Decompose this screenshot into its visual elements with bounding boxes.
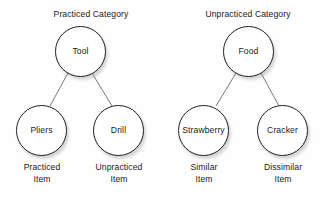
- node-strawberry[interactable]: Strawberry: [178, 105, 229, 156]
- caption-pliers-line1: Practiced: [6, 162, 78, 174]
- node-cracker[interactable]: Cracker: [257, 105, 308, 156]
- group-title-practiced-category: Practiced Category: [44, 10, 138, 19]
- node-pliers[interactable]: Pliers: [16, 105, 67, 156]
- caption-strawberry: Similar Item: [168, 162, 240, 185]
- edge-food-cracker: [261, 73, 279, 106]
- node-cracker-label: Cracker: [267, 126, 298, 135]
- caption-cracker-line2: Item: [246, 174, 320, 186]
- node-food-label: Food: [239, 47, 259, 56]
- node-tool-label: Tool: [72, 47, 88, 56]
- edge-food-strawberry: [216, 73, 236, 106]
- caption-cracker: Dissimilar Item: [246, 162, 320, 185]
- caption-pliers: Practiced Item: [6, 162, 78, 185]
- edge-tool-drill: [92, 73, 112, 106]
- diagram-canvas: Practiced Category Unpracticed Category …: [0, 0, 330, 197]
- node-drill-label: Drill: [111, 126, 126, 135]
- caption-pliers-line2: Item: [6, 174, 78, 186]
- caption-drill: Unpracticed Item: [82, 162, 156, 185]
- caption-drill-line2: Item: [82, 174, 156, 186]
- caption-cracker-line1: Dissimilar: [246, 162, 320, 174]
- node-tool[interactable]: Tool: [55, 26, 106, 77]
- node-drill[interactable]: Drill: [93, 105, 144, 156]
- caption-strawberry-line2: Item: [168, 174, 240, 186]
- edge-tool-pliers: [50, 73, 68, 106]
- caption-drill-line1: Unpracticed: [82, 162, 156, 174]
- node-strawberry-label: Strawberry: [182, 126, 225, 135]
- group-title-unpracticed-category: Unpracticed Category: [193, 10, 303, 19]
- caption-strawberry-line1: Similar: [168, 162, 240, 174]
- node-food[interactable]: Food: [223, 26, 274, 77]
- node-pliers-label: Pliers: [30, 126, 52, 135]
